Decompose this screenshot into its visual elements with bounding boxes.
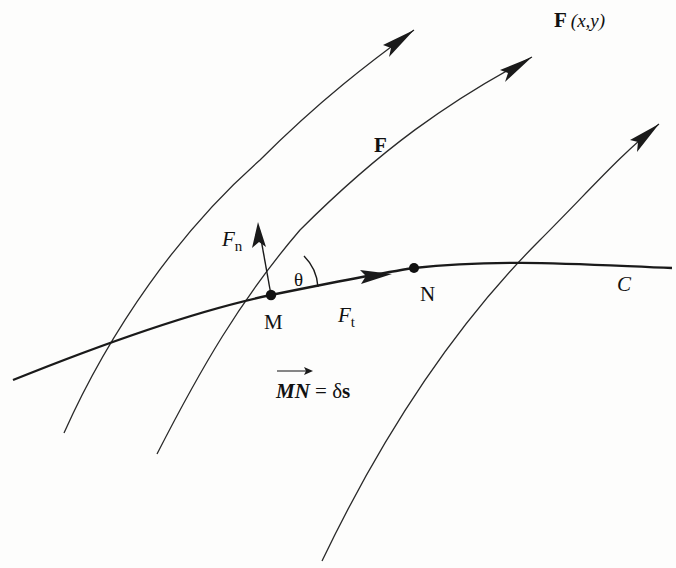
svg-text:MN = δs: MN = δs — [275, 379, 350, 403]
force-field-diagram: F(x,y) F Fn θ Ft M N C MN = δs — [0, 0, 676, 568]
field-arrowhead-3 — [630, 124, 659, 152]
field-line-1 — [64, 30, 414, 433]
displacement-label: MN = δs — [275, 367, 350, 403]
point-n-label: N — [420, 282, 435, 306]
angle-arc — [304, 256, 318, 287]
field-line-3 — [322, 124, 659, 561]
angle-label: θ — [294, 269, 303, 290]
field-title: F(x,y) — [554, 8, 605, 32]
curve-c-label: C — [617, 272, 632, 296]
field-label: F — [374, 133, 387, 157]
point-n — [409, 263, 419, 273]
point-m — [266, 290, 276, 300]
tangential-component-label: Ft — [337, 303, 356, 330]
field-arrowhead-1 — [383, 30, 414, 57]
point-m-label: M — [264, 310, 283, 334]
normal-arrowhead — [252, 222, 266, 248]
normal-component-label: Fn — [221, 227, 243, 254]
field-arrowhead-2 — [500, 57, 532, 82]
